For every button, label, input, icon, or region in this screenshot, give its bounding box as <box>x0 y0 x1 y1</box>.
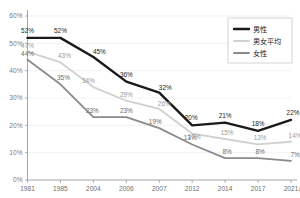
legend: 男性男女平均女性 <box>228 18 292 63</box>
data-label: 7% <box>290 151 300 158</box>
x-tick-label: 2004 <box>86 185 101 192</box>
legend-label-0: 男性 <box>253 25 267 34</box>
data-label: 23% <box>86 107 99 114</box>
data-label: 8% <box>255 148 265 155</box>
line-chart: 0%10%20%30%40%50%60%19811985200420062007… <box>0 0 300 198</box>
data-label: 21% <box>219 112 232 119</box>
data-label: 52% <box>54 27 67 34</box>
data-label: 44% <box>21 50 34 57</box>
data-label: 34% <box>82 77 95 84</box>
data-label: 36% <box>120 71 133 78</box>
x-axis-unit-label: (年) <box>299 184 300 193</box>
y-tick-label: 10% <box>9 149 22 156</box>
data-label: 29% <box>120 91 133 98</box>
data-label: 20% <box>185 114 198 121</box>
data-label: 23% <box>120 107 133 114</box>
data-label: 43% <box>58 52 71 59</box>
y-tick-label: 30% <box>9 94 22 101</box>
x-tick-label: 2006 <box>119 185 134 192</box>
y-tick-label: 60% <box>9 12 22 19</box>
x-tick-label: 2014 <box>218 185 233 192</box>
x-tick-label: 2017 <box>251 185 266 192</box>
data-label: 45% <box>93 48 106 55</box>
chart-canvas: 0%10%20%30%40%50%60%19811985200420062007… <box>0 0 300 198</box>
data-label: 22% <box>287 109 300 116</box>
x-tick-label: 1981 <box>20 185 35 192</box>
legend-label-1: 男女平均 <box>253 37 281 46</box>
data-label: 13% <box>254 134 267 141</box>
data-label: 47% <box>21 42 34 49</box>
data-label: 13% <box>184 134 197 141</box>
y-tick-label: 40% <box>9 67 22 74</box>
x-tick-label: 2007 <box>152 185 167 192</box>
data-label: 26% <box>158 100 171 107</box>
x-tick-label: 2012 <box>185 185 200 192</box>
x-tick-label: 2021 <box>284 185 299 192</box>
data-label: 14% <box>289 132 300 139</box>
legend-label-2: 女性 <box>253 49 267 58</box>
x-axis-ticks: 198119852004200620072012201420172021(年) <box>20 180 300 193</box>
data-label: 52% <box>21 27 34 34</box>
data-label: 32% <box>159 84 172 91</box>
y-tick-label: 0% <box>13 176 23 183</box>
y-axis-ticks: 0%10%20%30%40%50%60% <box>9 12 27 183</box>
data-label: 18% <box>252 120 265 127</box>
y-tick-label: 20% <box>9 122 22 129</box>
x-tick-label: 1985 <box>53 185 68 192</box>
data-label: 19% <box>149 118 162 125</box>
data-label: 8% <box>223 148 233 155</box>
data-label: 15% <box>221 129 234 136</box>
data-label: 35% <box>57 74 70 81</box>
